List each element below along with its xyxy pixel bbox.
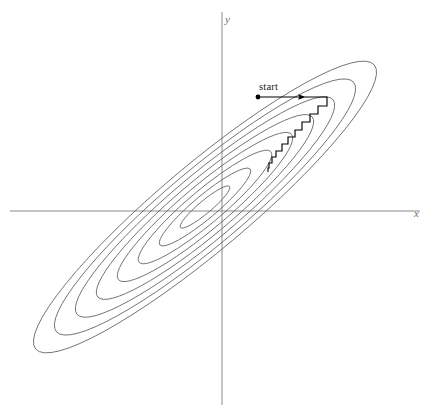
contour-ellipses-group bbox=[8, 32, 402, 382]
x-axis-label: x bbox=[414, 207, 419, 219]
axes-group bbox=[10, 12, 420, 405]
contour-level-4 bbox=[104, 117, 306, 296]
contour-level-3 bbox=[128, 139, 281, 275]
contour-plot-figure: y x start bbox=[0, 0, 434, 417]
y-axis-label: y bbox=[225, 13, 230, 25]
contour-level-8 bbox=[8, 32, 402, 382]
start-annotation-label: start bbox=[259, 81, 278, 92]
contour-level-7 bbox=[32, 53, 378, 361]
contour-level-5 bbox=[80, 96, 330, 318]
contour-level-1 bbox=[176, 182, 233, 233]
contour-level-6 bbox=[56, 75, 354, 340]
figure-canvas bbox=[0, 0, 434, 417]
contour-level-2 bbox=[152, 160, 257, 254]
